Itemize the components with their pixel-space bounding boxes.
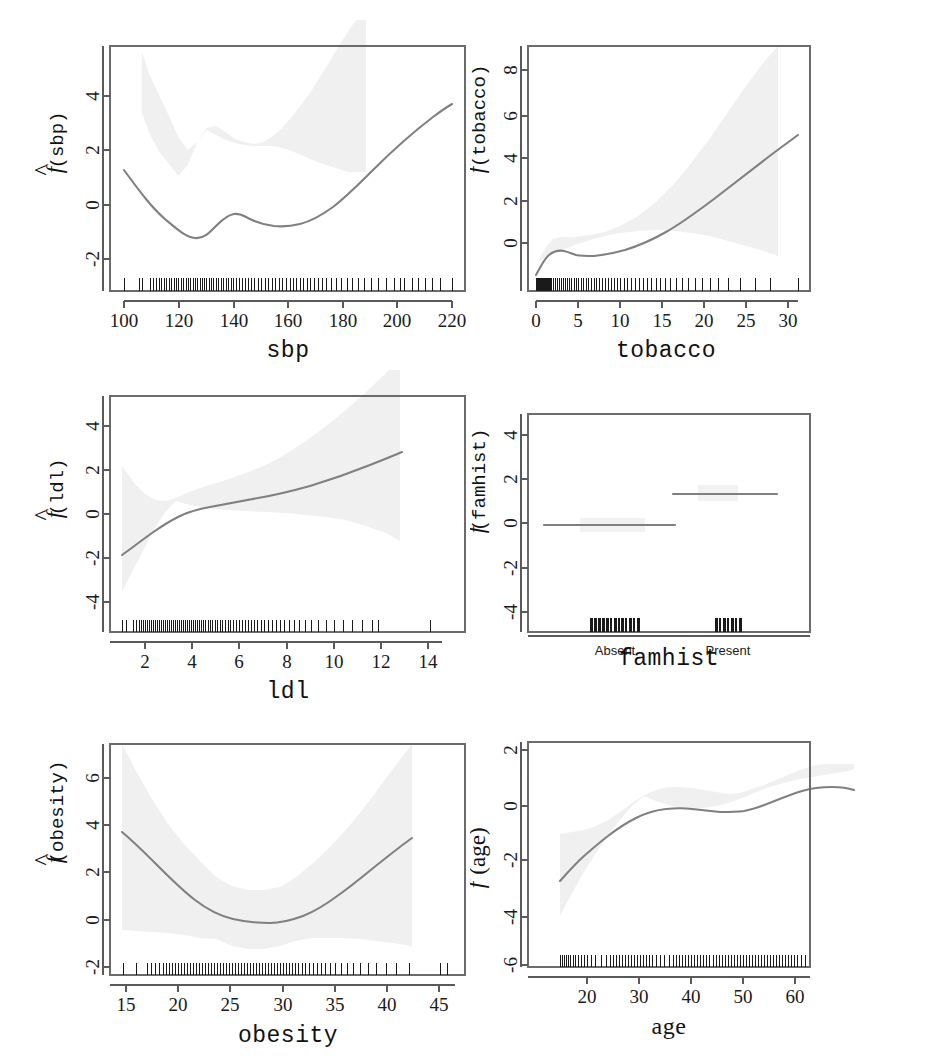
ldl-ytick-neg4: -4	[82, 594, 103, 610]
famhist-frame	[528, 414, 810, 632]
obesity-confidence-band	[122, 744, 412, 949]
sbp-xtick-180: 180	[329, 310, 358, 331]
obesity-xlabel: obesity	[238, 1023, 338, 1049]
age-ytick-2: 2	[500, 745, 521, 755]
ldl-ytick-2: 2	[82, 465, 103, 475]
ldl-xtick-2: 2	[140, 651, 150, 672]
famhist-ytick-2: 2	[500, 474, 521, 484]
ldl-x-axis: 2 4 6 8 10 12 14	[110, 642, 442, 672]
sbp-xtick-200: 200	[383, 310, 412, 331]
gam-partial-dependence-figure: 4 2 0 -2	[0, 0, 940, 1064]
obesity-ylabel-arg: (obesity)	[47, 761, 69, 864]
ldl-xlabel: ldl	[267, 679, 310, 705]
famhist-y-axis: 4 2 0 -2 -4	[500, 414, 528, 632]
sbp-xtick-220: 220	[438, 310, 467, 331]
sbp-x-axis: 100 120 140 160 180 200 220	[110, 301, 467, 331]
panel-age-svg: 2 0 -2 -4 -6	[470, 720, 940, 1064]
obesity-x-axis: 15 20 25 30 35 40 45	[110, 985, 455, 1015]
obesity-ytick-4: 4	[82, 820, 103, 830]
famhist-plot-area	[544, 485, 777, 532]
tobacco-ytick-8: 8	[500, 65, 521, 75]
sbp-xtick-100: 100	[110, 310, 139, 331]
famhist-rug	[591, 618, 740, 632]
age-ylabel-hat-glyph: ^	[470, 879, 477, 890]
age-ytick-neg6: -6	[500, 957, 521, 973]
tobacco-ytick-4: 4	[500, 153, 521, 163]
sbp-frame	[110, 46, 465, 291]
tobacco-xtick-25: 25	[737, 310, 756, 331]
sbp-xlabel: sbp	[267, 338, 310, 364]
tobacco-ytick-0: 0	[500, 238, 521, 248]
ldl-ytick-neg2: -2	[82, 550, 103, 566]
ldl-xtick-8: 8	[282, 651, 292, 672]
famhist-ytick-0: 0	[500, 518, 521, 528]
ldl-xtick-4: 4	[187, 651, 197, 672]
tobacco-xtick-15: 15	[653, 310, 672, 331]
panel-famhist-svg: 4 2 0 -2 -4 Absent Present	[470, 370, 940, 720]
tobacco-rug	[536, 278, 798, 291]
obesity-xtick-30: 30	[274, 994, 293, 1015]
tobacco-y-axis: 8 6 4 2 0	[500, 46, 528, 291]
ldl-ylabel-arg: (ldl)	[47, 458, 69, 515]
obesity-rug	[123, 963, 447, 975]
ldl-rug	[122, 620, 430, 632]
obesity-plot-area	[122, 744, 412, 949]
ldl-ytick-0: 0	[82, 509, 103, 519]
sbp-plot-area	[124, 20, 452, 238]
age-y-axis: 2 0 -2 -4 -6	[500, 742, 528, 973]
famhist-ytick-neg4: -4	[500, 604, 521, 620]
obesity-y-axis: 6 4 2 0 -2	[82, 744, 110, 975]
age-xlabel: age	[652, 1013, 687, 1039]
age-ytick-0: 0	[500, 801, 521, 811]
age-xtick-60: 60	[786, 986, 805, 1007]
obesity-xtick-35: 35	[326, 994, 345, 1015]
famhist-ytick-neg2: -2	[500, 560, 521, 576]
obesity-ytick-0: 0	[82, 915, 103, 925]
ldl-xtick-10: 10	[325, 651, 344, 672]
tobacco-xtick-5: 5	[573, 310, 583, 331]
panel-obesity: 6 4 2 0 -2	[0, 720, 470, 1064]
age-ylabel-arg: (age)	[470, 827, 490, 874]
sbp-xtick-120: 120	[165, 310, 194, 331]
ldl-xtick-12: 12	[372, 651, 391, 672]
sbp-rug	[124, 278, 452, 291]
tobacco-plot-area	[536, 46, 798, 275]
ldl-confidence-band	[122, 370, 400, 592]
sbp-ytick-0: 0	[82, 200, 103, 210]
obesity-xtick-40: 40	[378, 994, 397, 1015]
age-xtick-30: 30	[630, 986, 649, 1007]
panel-age: 2 0 -2 -4 -6	[470, 720, 940, 1064]
sbp-xtick-140: 140	[220, 310, 249, 331]
tobacco-ytick-6: 6	[500, 111, 521, 121]
obesity-xtick-25: 25	[221, 994, 240, 1015]
sbp-y-axis: 4 2 0 -2	[82, 46, 110, 291]
tobacco-x-axis: 0 5 10 15 20 25 30	[531, 301, 798, 331]
panel-sbp-svg: 4 2 0 -2	[0, 20, 470, 370]
ldl-y-axis: 4 2 0 -2 -4	[82, 396, 110, 632]
tobacco-confidence-band	[538, 46, 778, 261]
sbp-ylabel: f ^ (sbp)	[30, 111, 69, 175]
ldl-ytick-4: 4	[82, 421, 103, 431]
panel-ldl: 4 2 0 -2 -4	[0, 370, 470, 720]
age-xtick-20: 20	[578, 986, 597, 1007]
ldl-xtick-6: 6	[234, 651, 244, 672]
ldl-plot-area	[122, 370, 402, 592]
sbp-ytick-2: 2	[82, 145, 103, 155]
tobacco-ylabel: f ^ (tobacco)	[470, 65, 491, 176]
panel-famhist: 4 2 0 -2 -4 Absent Present	[470, 370, 940, 720]
tobacco-xtick-20: 20	[695, 310, 714, 331]
tobacco-ytick-2: 2	[500, 196, 521, 206]
age-ylabel: f ^ (age)	[470, 827, 490, 890]
obesity-ytick-neg2: -2	[82, 959, 103, 975]
obesity-xtick-15: 15	[117, 994, 136, 1015]
panel-sbp: 4 2 0 -2	[0, 20, 470, 370]
obesity-ylabel: f ^ (obesity)	[30, 761, 69, 866]
ldl-ylabel: f ^ (ldl)	[30, 458, 69, 520]
tobacco-xtick-10: 10	[611, 310, 630, 331]
famhist-xlabel: famhist	[619, 646, 719, 672]
sbp-xtick-160: 160	[274, 310, 303, 331]
age-ytick-neg4: -4	[500, 909, 521, 925]
famhist-ytick-4: 4	[500, 430, 521, 440]
obesity-ytick-2: 2	[82, 867, 103, 877]
sbp-ytick-neg2: -2	[82, 251, 103, 267]
